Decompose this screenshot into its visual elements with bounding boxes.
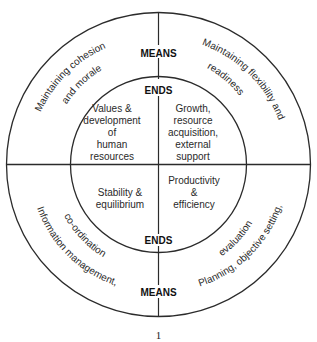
means-bottom-left: Information management, — [35, 205, 119, 288]
competing-values-diagram: MEANS ENDS ENDS MEANS Values & developme… — [0, 0, 317, 342]
svg-text:development: development — [83, 115, 140, 126]
ends-label-top: ENDS — [145, 85, 173, 96]
svg-text:resource: resource — [174, 115, 213, 126]
ends-top-left: Values & development of human resources — [83, 103, 140, 162]
ends-bottom-left: Stability & equilibrium — [96, 187, 144, 210]
svg-text:of: of — [108, 127, 117, 138]
svg-text:Stability &: Stability & — [98, 187, 143, 198]
page-number: 1 — [156, 329, 162, 341]
means-bottom-right: Planning, objective setting, — [197, 203, 284, 289]
svg-text:&: & — [191, 187, 198, 198]
means-top-right: Maintaining flexibility and — [201, 36, 287, 121]
ends-label-bottom: ENDS — [145, 235, 173, 246]
svg-text:resources: resources — [90, 151, 134, 162]
svg-text:Productivity: Productivity — [168, 175, 220, 186]
svg-text:Values &: Values & — [92, 103, 132, 114]
svg-text:external: external — [175, 139, 211, 150]
svg-text:acquisition,: acquisition, — [168, 127, 218, 138]
means-label-bottom: MEANS — [140, 287, 176, 298]
svg-text:Growth,: Growth, — [175, 103, 210, 114]
svg-text:equilibrium: equilibrium — [96, 199, 144, 210]
svg-text:support: support — [176, 151, 210, 162]
means-label-top: MEANS — [140, 48, 176, 59]
ends-top-right: Growth, resource acquisition, external s… — [168, 103, 218, 162]
svg-text:human: human — [97, 139, 128, 150]
ends-bottom-right: Productivity & efficiency — [168, 175, 220, 210]
svg-text:efficiency: efficiency — [173, 199, 215, 210]
